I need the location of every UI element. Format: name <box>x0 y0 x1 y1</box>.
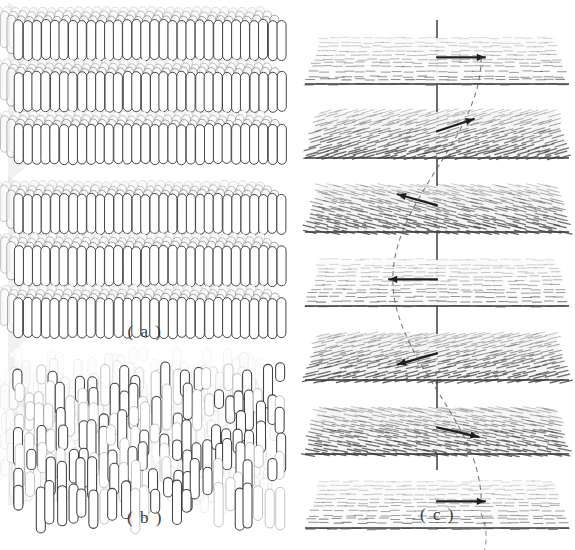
cholesteric-stack <box>300 0 575 500</box>
panel-c-label: ( c ) <box>300 505 575 525</box>
smectic-block-top <box>0 2 300 187</box>
nematic-block <box>0 360 300 515</box>
smectic-block-bottom <box>0 176 300 336</box>
panel-b-label: ( b ) <box>0 508 290 528</box>
liquid-crystal-phase-figure: ( a ) ( b ) ( c ) <box>0 0 575 550</box>
panel-a-label: ( a ) <box>0 322 290 342</box>
